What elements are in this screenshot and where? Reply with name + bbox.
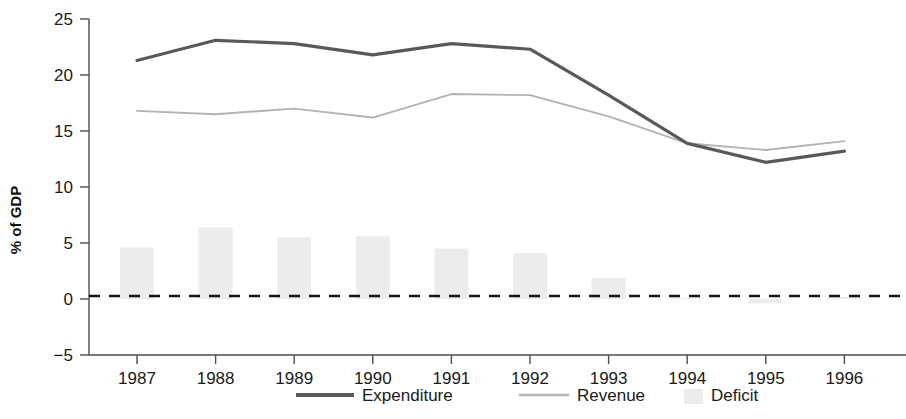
legend-swatch-icon xyxy=(684,389,703,404)
legend-item[interactable]: Expenditure xyxy=(296,386,453,405)
y-tick-label: −5 xyxy=(54,346,73,365)
y-tick-label: 15 xyxy=(54,122,73,141)
chart-figure: % of GDP 2520151050−5 198719881989199019… xyxy=(0,0,906,419)
deficit-bar-series xyxy=(120,227,861,303)
x-tick-label: 1992 xyxy=(511,369,549,388)
x-axis: 1987198819891990199119921993199419951996 xyxy=(118,355,863,388)
deficit-bar xyxy=(277,237,311,299)
y-axis-label: % of GDP xyxy=(7,186,24,254)
legend-label: Deficit xyxy=(711,386,759,405)
deficit-bar xyxy=(434,249,468,299)
legend-item[interactable]: Deficit xyxy=(684,386,759,405)
expenditure-line-series xyxy=(137,40,844,162)
revenue-line-series xyxy=(137,94,844,150)
legend-label: Revenue xyxy=(577,386,645,405)
y-tick-label: 0 xyxy=(64,290,73,309)
deficit-bar xyxy=(749,299,783,303)
chart-legend: ExpenditureRevenueDeficit xyxy=(296,386,759,405)
y-tick-label: 10 xyxy=(54,178,73,197)
deficit-bar xyxy=(120,247,154,299)
deficit-bar xyxy=(199,227,233,299)
deficit-bar xyxy=(513,253,547,299)
deficit-bar xyxy=(356,236,390,299)
x-tick-label: 1987 xyxy=(118,369,156,388)
legend-item[interactable]: Revenue xyxy=(519,386,645,405)
y-tick-label: 20 xyxy=(54,66,73,85)
legend-label: Expenditure xyxy=(362,386,453,405)
gdp-expenditure-revenue-deficit-chart: % of GDP 2520151050−5 198719881989199019… xyxy=(0,0,906,419)
y-tick-label: 5 xyxy=(64,234,73,253)
y-axis: 2520151050−5 xyxy=(54,10,89,365)
y-tick-label: 25 xyxy=(54,10,73,29)
x-tick-label: 1994 xyxy=(668,369,706,388)
y-axis-label-text: % of GDP xyxy=(7,186,24,254)
x-tick-label: 1988 xyxy=(197,369,235,388)
x-tick-label: 1996 xyxy=(825,369,863,388)
x-tick-label: 1989 xyxy=(275,369,313,388)
deficit-bar xyxy=(670,298,704,299)
